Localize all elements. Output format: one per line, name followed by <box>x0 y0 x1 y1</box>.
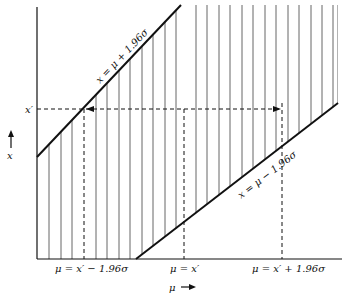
y-axis-label: x <box>7 150 13 161</box>
acceptance-region-hatching <box>49 0 338 259</box>
confidence-band-diagram: x = μ + 1.96σ x = μ − 1.96σ x′ x μ = x′ … <box>0 0 345 297</box>
y-axis-arrow-icon <box>8 130 14 137</box>
x-axis-arrow-icon <box>189 284 196 290</box>
arrowhead-left-intersection <box>86 106 94 112</box>
x-tick-label-upper: μ = x′ + 1.96σ <box>252 263 326 274</box>
upper-bound-line <box>37 5 181 157</box>
x-tick-label-lower: μ = x′ − 1.96σ <box>55 263 129 274</box>
lower-bound-line <box>136 103 338 259</box>
arrowhead-right-intersection <box>273 106 281 112</box>
x-axis-label: μ <box>169 282 176 293</box>
construction-dashes <box>37 103 282 259</box>
observed-x-label: x′ <box>25 104 34 115</box>
x-tick-label-center: μ = x′ <box>170 263 200 274</box>
